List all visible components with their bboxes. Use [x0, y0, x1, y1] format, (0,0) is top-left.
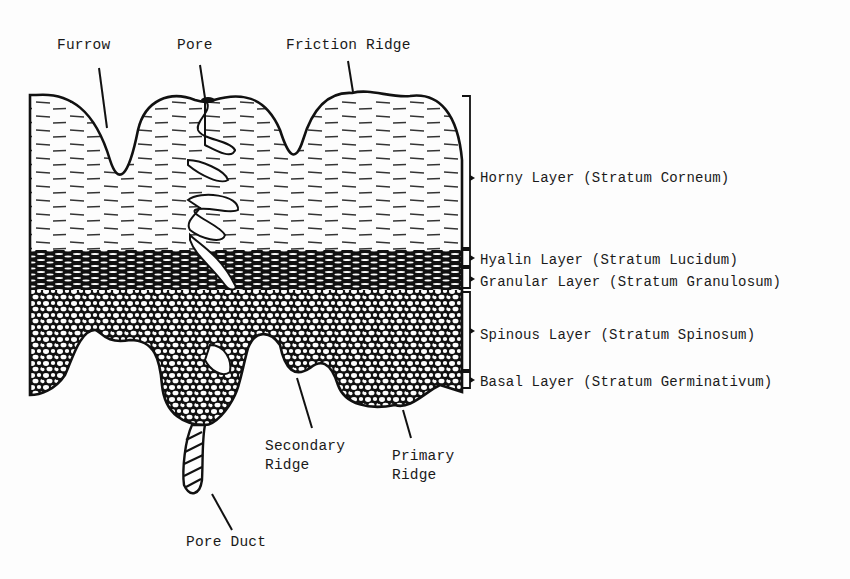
secondary-ridge-leader [297, 378, 312, 428]
primary-ridge-leader [403, 410, 411, 438]
primary-ridge-label: Primary Ridge [392, 447, 454, 485]
pore-label: Pore [177, 36, 213, 55]
spinous-layer-label: Spinous Layer (Stratum Spinosum) [480, 326, 755, 345]
skin-diagram: Furrow Pore Friction Ridge Horny Layer (… [0, 0, 850, 579]
granular-layer-label: Granular Layer (Stratum Granulosum) [480, 273, 781, 292]
secondary-ridge-label: Secondary Ridge [265, 437, 345, 475]
friction-ridge-leader [348, 61, 353, 92]
furrow-leader [99, 68, 107, 128]
hyalin-layer-label: Hyalin Layer (Stratum Lucidum) [480, 251, 738, 270]
pore-leader [200, 65, 205, 98]
friction-ridge-label: Friction Ridge [286, 36, 411, 55]
pore-duct-leader [212, 494, 232, 530]
horny-layer-label: Horny Layer (Stratum Corneum) [480, 169, 729, 188]
pore-duct-label: Pore Duct [186, 533, 266, 552]
furrow-label: Furrow [57, 36, 110, 55]
basal-layer-label: Basal Layer (Stratum Germinativum) [480, 373, 772, 392]
